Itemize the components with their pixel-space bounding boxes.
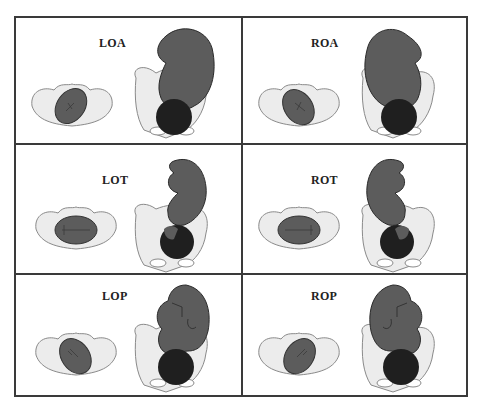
panel-lop: LOP [16,275,243,395]
fetus-in-pelvis-illustration [243,275,466,395]
panel-lot: LOT [16,145,243,275]
panel-rot: ROT [243,145,466,275]
fetal-position-grid: LOA ROA [14,16,468,397]
fetus-in-pelvis-illustration [243,18,466,143]
panel-roa: ROA [243,18,466,145]
fetus-in-pelvis-illustration [16,145,241,273]
fetus-in-pelvis-illustration [16,18,241,143]
fetus-in-pelvis-illustration [243,145,466,273]
panel-loa: LOA [16,18,243,145]
fetus-in-pelvis-illustration [16,275,241,395]
panel-rop: ROP [243,275,466,395]
